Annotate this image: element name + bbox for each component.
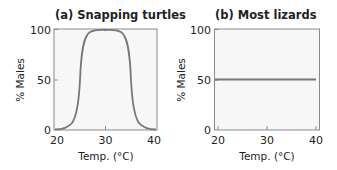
panel-b-ylabel: % Males: [175, 58, 187, 102]
panel-a-plot-area: [54, 29, 157, 130]
panel-a-xtick-label-30: 30: [99, 134, 113, 147]
panel-b-xtick-label-30: 30: [260, 134, 274, 147]
panel-b-most-lizards: (b) Most lizards 100 50 0 20 30 40 Temp.…: [175, 8, 323, 162]
panel-a-xtick-label-40: 40: [147, 134, 161, 147]
panel-a-xtick-label-20: 20: [50, 134, 64, 147]
panel-b-ytick-label-50: 50: [197, 74, 211, 87]
panel-b-title: (b) Most lizards: [215, 8, 317, 22]
panel-a-ytick-label-50: 50: [37, 74, 51, 87]
panel-b-ytick-label-100: 100: [190, 24, 211, 37]
panel-a-xlabel: Temp. (°C): [77, 150, 133, 162]
figure: (a) Snapping turtles 100 50 0 20 30 40 T…: [0, 0, 337, 170]
panel-b-ytick-label-0: 0: [204, 124, 211, 137]
panel-a-snapping-turtles: (a) Snapping turtles 100 50 0 20 30 40 T…: [14, 8, 186, 162]
panel-b-xtick-label-20: 20: [211, 134, 225, 147]
panel-b-xlabel: Temp. (°C): [238, 150, 294, 162]
panel-a-ytick-label-100: 100: [30, 24, 51, 37]
panel-a-ylabel: % Males: [14, 58, 26, 102]
panel-b-xtick-label-40: 40: [309, 134, 323, 147]
panel-a-title: (a) Snapping turtles: [55, 8, 186, 22]
